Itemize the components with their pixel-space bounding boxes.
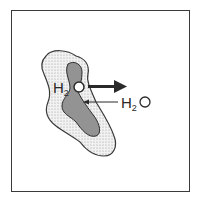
- leaving-water-label: H2: [53, 80, 69, 98]
- entry-arrow-icon: [83, 100, 118, 105]
- entering-water-label: H2: [121, 95, 137, 113]
- leaving-water-oxygen: [74, 82, 84, 92]
- entering-water-oxygen: [140, 97, 150, 107]
- exit-arrow-icon: [88, 80, 127, 93]
- diagram-canvas: [0, 0, 202, 203]
